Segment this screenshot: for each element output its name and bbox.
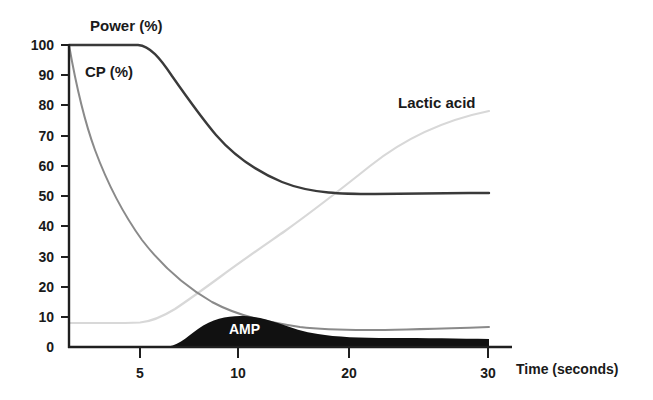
- y-tick-label-60: 60: [14, 159, 54, 173]
- y-tick-label-80: 80: [14, 98, 54, 112]
- series-line-lactic-acid: [69, 111, 489, 323]
- x-tick-marks: [140, 347, 488, 358]
- x-axis-title: Time (seconds): [516, 362, 618, 376]
- power-axis-title: Power (%): [90, 18, 163, 33]
- cp-series-label: CP (%): [85, 64, 133, 79]
- x-tick-label-30: 30: [468, 366, 508, 380]
- y-tick-label-0: 0: [14, 340, 54, 354]
- y-tick-label-70: 70: [14, 129, 54, 143]
- y-tick-label-20: 20: [14, 280, 54, 294]
- chart-figure: 100 90 80 70 60 50 40 30 20 10 0 5 10 20…: [0, 0, 653, 400]
- y-tick-label-10: 10: [14, 310, 54, 324]
- x-tick-label-5: 5: [120, 366, 160, 380]
- series-line-cp: [69, 45, 489, 330]
- y-tick-label-50: 50: [14, 189, 54, 203]
- y-tick-label-90: 90: [14, 68, 54, 82]
- y-tick-label-40: 40: [14, 219, 54, 233]
- y-tick-label-100: 100: [14, 38, 54, 52]
- amp-series-label: AMP: [229, 322, 260, 336]
- x-tick-label-10: 10: [218, 366, 258, 380]
- lactic-acid-series-label: Lactic acid: [398, 95, 476, 110]
- plot-area: [0, 0, 653, 400]
- series-area-amp: [164, 316, 489, 347]
- x-tick-label-20: 20: [329, 366, 369, 380]
- y-tick-label-30: 30: [14, 250, 54, 264]
